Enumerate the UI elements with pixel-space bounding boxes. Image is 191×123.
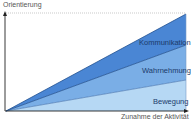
band-label-kommunikation: Kommunikation <box>139 38 191 47</box>
y-axis-label: Orientierung <box>3 1 42 8</box>
band-label-bewegung: Bewegung <box>153 97 188 106</box>
band-label-wahrnehmung: Wahrnehmung <box>142 66 191 75</box>
y-axis-arrow-icon <box>3 11 7 16</box>
x-axis-label: Zunahme der Aktivität <box>121 113 189 120</box>
